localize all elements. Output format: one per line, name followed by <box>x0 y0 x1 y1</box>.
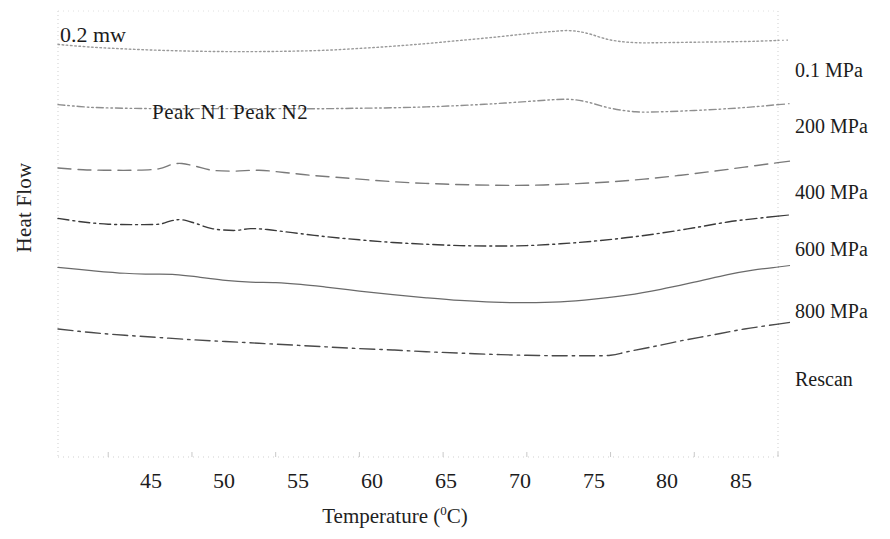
leader-600-mpa <box>778 215 790 216</box>
series-label-600-mpa: 600 MPa <box>795 238 868 261</box>
x-axis-title-main: Temperature ( <box>322 504 440 528</box>
x-tick-label-65: 65 <box>416 468 476 494</box>
x-axis-title: Temperature (0C) <box>0 504 790 529</box>
leader-800-mpa <box>778 266 790 267</box>
leader-200-mpa <box>778 104 790 105</box>
series-label-800-mpa: 800 MPa <box>795 300 868 323</box>
dsc-thermogram-figure: Heat Flow Temperature (0C) 45 50 55 60 6… <box>0 0 890 539</box>
x-tick-label-55: 55 <box>268 468 328 494</box>
series-label-400-mpa: 400 MPa <box>795 181 868 204</box>
x-tick-label-70: 70 <box>490 468 550 494</box>
leader-rescan <box>778 322 790 324</box>
curve-0-1-mpa <box>58 31 778 52</box>
curve-rescan <box>58 324 778 356</box>
series-label-0-1-mpa: 0.1 MPa <box>795 59 863 82</box>
curve-600-mpa <box>58 216 778 246</box>
x-tick-label-60: 60 <box>342 468 402 494</box>
axis-frame <box>58 11 778 457</box>
x-tick-label-45: 45 <box>121 468 181 494</box>
x-tick-label-85: 85 <box>711 468 771 494</box>
plot-canvas <box>0 0 890 539</box>
annotation-peak-labels: Peak N1 Peak N2 <box>152 100 308 125</box>
x-tick-label-80: 80 <box>637 468 697 494</box>
curve-800-mpa <box>58 267 778 303</box>
y-axis-title: Heat Flow <box>12 148 37 268</box>
series-label-200-mpa: 200 MPa <box>795 115 868 138</box>
leader-400-mpa <box>778 161 790 163</box>
x-tick-label-75: 75 <box>564 468 624 494</box>
x-tick-label-50: 50 <box>194 468 254 494</box>
x-axis-ticks <box>108 452 778 457</box>
x-axis-title-tail: C) <box>447 504 468 528</box>
curve-400-mpa <box>58 163 778 186</box>
series-label-rescan: Rescan <box>795 368 853 391</box>
annotation-power-scale: 0.2 mw <box>60 22 126 48</box>
curve-group <box>58 31 790 356</box>
